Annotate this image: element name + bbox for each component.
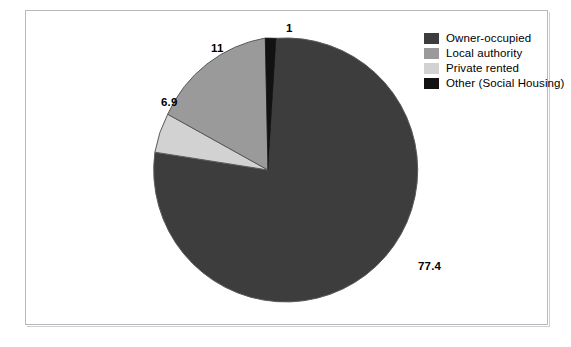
chart-legend: Owner-occupied Local authority Private r… <box>424 31 571 91</box>
legend-item-private-rented[interactable]: Private rented <box>424 61 571 75</box>
legend-item-local-authority[interactable]: Local authority <box>424 46 571 60</box>
legend-item-owner-occupied[interactable]: Owner-occupied <box>424 31 571 45</box>
legend-label-local-authority: Local authority <box>446 47 522 59</box>
legend-item-other-social-housing[interactable]: Other (Social Housing) <box>424 76 571 90</box>
data-label-private-rented: 6.9 <box>161 97 178 109</box>
data-label-owner-occupied: 77.4 <box>418 261 441 273</box>
legend-label-other-social-housing: Other (Social Housing) <box>446 77 565 89</box>
data-label-local-authority: 11 <box>211 43 224 55</box>
legend-label-owner-occupied: Owner-occupied <box>446 32 531 44</box>
legend-swatch-icon-local-authority <box>424 48 439 59</box>
legend-swatch-icon-owner-occupied <box>424 33 439 44</box>
legend-swatch-icon-other-social-housing <box>424 78 439 89</box>
pie-chart: 1 11 6.9 77.4 Owner-occupied Local autho… <box>25 10 548 325</box>
legend-swatch-icon-private-rented <box>424 63 439 74</box>
legend-label-private-rented: Private rented <box>446 62 519 74</box>
data-label-other-social-housing: 1 <box>286 23 293 35</box>
